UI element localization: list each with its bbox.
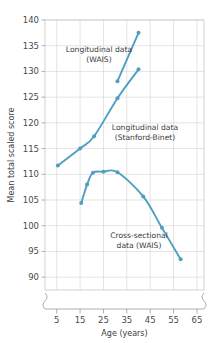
data-point (160, 226, 164, 230)
annotation-line: Cross-sectional (110, 231, 168, 240)
data-point (56, 164, 60, 168)
y-tick-label: 95 (28, 246, 39, 256)
data-point (85, 183, 89, 187)
data-point (137, 31, 141, 35)
data-point (91, 171, 95, 175)
data-point (115, 79, 119, 83)
y-tick-label: 110 (23, 169, 39, 179)
y-tick-label: 120 (23, 118, 39, 128)
x-axis-title: Age (years) (101, 329, 147, 338)
data-point (78, 147, 82, 151)
x-tick-label: 25 (98, 315, 109, 325)
x-tick-label: 5 (54, 315, 59, 325)
data-point (79, 201, 83, 205)
y-tick-label: 125 (23, 92, 39, 102)
longitudinal-stanford-binet-label: Longitudinal data(Stanford-Binet) (112, 123, 178, 142)
y-tick-label: 105 (23, 195, 39, 205)
x-tick-label: 35 (121, 315, 132, 325)
data-point (141, 194, 145, 198)
data-point (179, 257, 183, 261)
annotation-line: (Stanford-Binet) (115, 133, 176, 142)
y-tick-label: 140 (23, 15, 39, 25)
x-tick-label: 45 (145, 315, 156, 325)
data-point (137, 67, 141, 71)
data-point (101, 170, 105, 174)
annotation-line: (WAIS) (86, 55, 111, 64)
data-point (92, 134, 96, 138)
y-tick-label: 135 (23, 41, 39, 51)
data-point (115, 96, 119, 100)
annotation-line: Longitudinal data (112, 123, 178, 132)
y-tick-label: 130 (23, 66, 39, 76)
x-tick-label: 65 (192, 315, 203, 325)
y-tick-label: 115 (23, 144, 39, 154)
annotation-line: Longitudinal data (66, 45, 132, 54)
chart-figure: 9095100105110115120125130135140 51525354… (0, 0, 221, 343)
y-axis-title: Mean total scaled score (7, 107, 16, 202)
annotation-line: data (WAIS) (117, 241, 162, 250)
x-tick-label: 55 (168, 315, 179, 325)
y-tick-label: 90 (28, 272, 39, 282)
cross-sectional-wais-label: Cross-sectionaldata (WAIS) (110, 231, 168, 250)
x-tick-label: 15 (75, 315, 86, 325)
y-tick-label: 100 (23, 221, 39, 231)
data-point (115, 170, 119, 174)
